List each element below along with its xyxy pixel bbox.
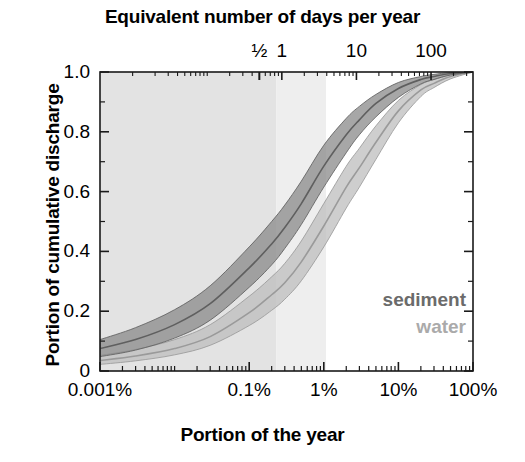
y-tick-label: 0 bbox=[30, 360, 90, 382]
x-tick-label: 1% bbox=[310, 379, 337, 401]
y-tick-label: 1.0 bbox=[30, 61, 90, 83]
top-tick-label: 100 bbox=[415, 40, 447, 62]
top-tick-label: 1 bbox=[277, 40, 288, 62]
top-tick-label: ½ bbox=[251, 40, 267, 62]
y-tick-label: 0.4 bbox=[30, 240, 90, 262]
legend-label-sediment: sediment bbox=[300, 289, 466, 311]
top-tick-label: 10 bbox=[346, 40, 367, 62]
x-tick-label: 0.001% bbox=[68, 379, 132, 401]
x-tick-label: 0.1% bbox=[228, 379, 271, 401]
legend-label-water: water bbox=[300, 316, 466, 338]
y-tick-label: 0.8 bbox=[30, 121, 90, 143]
figure-container: Equivalent number of days per year Porti… bbox=[0, 0, 525, 462]
y-tick-label: 0.2 bbox=[30, 300, 90, 322]
x-tick-label: 10% bbox=[379, 379, 417, 401]
x-tick-label: 100% bbox=[449, 379, 498, 401]
y-tick-label: 0.6 bbox=[30, 181, 90, 203]
